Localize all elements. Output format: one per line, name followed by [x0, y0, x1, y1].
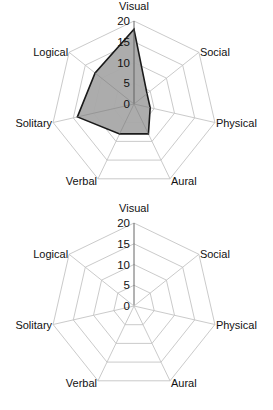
axis-spoke	[134, 254, 199, 306]
radial-tick-label: 0	[124, 98, 130, 110]
radial-tick-label: 5	[124, 77, 130, 89]
radial-tick-label: 20	[117, 217, 130, 229]
axis-spoke	[53, 306, 134, 325]
category-label-solitary: Solitary	[15, 319, 52, 331]
radar-chart-learning-styles-empty: 05101520VisualSocialPhysicalAuralVerbalS…	[15, 202, 256, 389]
radial-tick-label: 0	[124, 300, 130, 312]
category-label-physical: Physical	[216, 117, 257, 129]
radial-tick-label: 10	[117, 259, 130, 271]
category-label-logical: Logical	[33, 46, 68, 58]
category-label-aural: Aural	[171, 377, 197, 389]
radar-chart-learning-styles-filled: 05101520VisualSocialPhysicalAuralVerbalS…	[15, 0, 256, 187]
category-label-social: Social	[200, 46, 230, 58]
category-label-solitary: Solitary	[15, 117, 52, 129]
category-label-aural: Aural	[171, 175, 197, 187]
radial-tick-label: 5	[124, 279, 130, 291]
radial-tick-label: 15	[117, 36, 130, 48]
radial-tick-label: 15	[117, 238, 130, 250]
category-label-visual: Visual	[119, 202, 149, 214]
category-label-physical: Physical	[216, 319, 257, 331]
category-label-logical: Logical	[33, 248, 68, 260]
category-label-social: Social	[200, 248, 230, 260]
category-label-visual: Visual	[119, 0, 149, 12]
category-label-verbal: Verbal	[66, 175, 97, 187]
chart-canvas: 05101520VisualSocialPhysicalAuralVerbalS…	[0, 0, 273, 410]
axis-spoke	[134, 306, 215, 325]
radial-tick-label: 20	[117, 15, 130, 27]
data-series-polygon	[77, 29, 150, 134]
radial-tick-label: 10	[117, 57, 130, 69]
category-label-verbal: Verbal	[66, 377, 97, 389]
